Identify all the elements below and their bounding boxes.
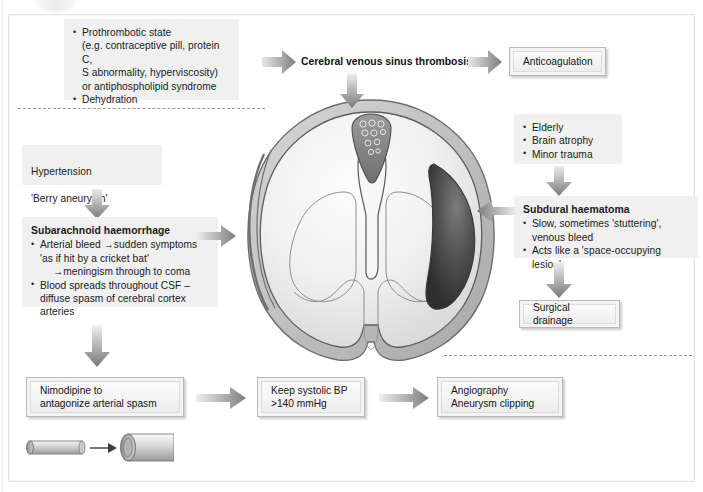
treatment-label-surgical-drainage: Surgical drainage [523, 304, 616, 324]
arrow-cause-to-subdural [546, 166, 572, 196]
cause-box-subdural: Elderly Brain atrophy Minor trauma [514, 114, 622, 164]
brain-coronal-illustration [228, 94, 514, 366]
arrow-subdural-to-brain [477, 199, 517, 223]
sah-b2-line3: arteries [40, 305, 209, 318]
arrow-nimodipine-to-keep-bp [196, 386, 246, 410]
vessel-spasm-diagram [24, 428, 174, 468]
vessel-transition-arrow [90, 443, 117, 453]
treatment-box-surgical-drainage[interactable]: Surgical drainage [519, 300, 620, 328]
subdural-bullet-1: Slow, sometimes 'stuttering', venous ble… [523, 217, 689, 244]
arrow-thrombosis-to-sinus [340, 74, 364, 108]
treatment-box-anticoagulation[interactable]: Anticoagulation [509, 47, 606, 76]
arrow-subarachnoid-to-brain [196, 224, 236, 248]
arrow-cause-to-subarachnoid [84, 189, 110, 219]
subdural-heading: Subdural haematoma [523, 203, 689, 216]
subarachnoid-bullet-1: Arterial bleed →sudden symptoms 'as if h… [31, 238, 209, 278]
sdh-b1-line2: venous bleed [532, 231, 689, 244]
arrow-keep-bp-to-angiography [379, 386, 429, 410]
sah-b1-line3: →meningism through to coma [40, 265, 209, 278]
subdural-cause-minor-trauma: Minor trauma [523, 148, 613, 161]
subdural-cause-elderly: Elderly [523, 121, 613, 134]
sah-b1-line1: Arterial bleed →sudden symptoms [40, 239, 197, 250]
arrow-subdural-to-surgical-drainage [546, 262, 572, 298]
cause-box-subarachnoid: Hypertension 'Berry aneurysm' [22, 145, 162, 185]
condition-box-subdural-haematoma: Subdural haematoma Slow, sometimes 'stut… [514, 196, 698, 258]
subarachnoid-heading: Subarachnoid haemorrhage [31, 224, 209, 237]
treatment-label-anticoagulation: Anticoagulation [513, 51, 602, 72]
bullet-prothrombotic-state: Prothrombotic state (e.g. contraceptive … [73, 26, 230, 93]
dilated-vessel-after-nimodipine [121, 434, 175, 461]
condition-box-subarachnoid-haemorrhage: Subarachnoid haemorrhage Arterial bleed … [22, 217, 218, 307]
sah-b1-line2: 'as if hit by a cricket bat' [40, 252, 209, 265]
scan-artifact-circle [34, 0, 78, 12]
sah-b2-line1: Blood spreads throughout CSF – [40, 280, 190, 291]
prothrombotic-line-2: (e.g. contraceptive pill, protein C, [82, 39, 230, 66]
treatment-label-angiography: Angiography Aneurysm clipping [441, 381, 559, 413]
prothrombotic-line-1: Prothrombotic state [82, 27, 171, 38]
subdural-cause-brain-atrophy: Brain atrophy [523, 134, 613, 147]
arrow-cause-to-venous-sinus-thrombosis [262, 50, 296, 74]
treatment-label-keep-systolic-bp: Keep systolic BP >140 mmHg [261, 381, 361, 413]
arrow-to-anticoagulation [468, 50, 502, 74]
treatment-box-nimodipine[interactable]: Nimodipine to antagonize arterial spasm [26, 377, 184, 417]
arrow-subarachnoid-to-nimodipine [84, 325, 110, 367]
prothrombotic-line-4: or antiphospholipid syndrome [82, 80, 230, 93]
constricted-vessel-in-spasm [27, 441, 85, 454]
subarachnoid-bullet-2: Blood spreads throughout CSF – diffuse s… [31, 279, 209, 319]
treatment-box-angiography[interactable]: Angiography Aneurysm clipping [437, 377, 563, 417]
page-left-edge [0, 0, 4, 492]
cause-box-venous-sinus-thrombosis: Prothrombotic state (e.g. contraceptive … [64, 19, 239, 100]
treatment-label-nimodipine: Nimodipine to antagonize arterial spasm [30, 381, 180, 413]
cause-hypertension: Hypertension [31, 166, 92, 177]
sdh-b1-line1: Slow, sometimes 'stuttering', [532, 218, 661, 229]
condition-label-venous-sinus-thrombosis: Cerebral venous sinus thrombosis [301, 56, 472, 67]
sah-b2-line2: diffuse spasm of cerebral cortex [40, 292, 209, 305]
treatment-box-keep-systolic-bp[interactable]: Keep systolic BP >140 mmHg [257, 377, 365, 417]
prothrombotic-line-3: S abnormality, hyperviscosity) [82, 66, 230, 79]
figure-canvas: Prothrombotic state (e.g. contraceptive … [0, 0, 703, 492]
bullet-dehydration: Dehydration [73, 93, 230, 106]
